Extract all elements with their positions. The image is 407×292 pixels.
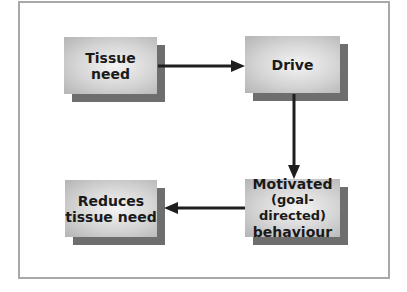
node-label-line: tissue need xyxy=(65,209,156,225)
node-tissue-need: Tissue need xyxy=(64,37,157,94)
node-label-line: Tissue xyxy=(85,50,135,66)
node-label-line: Reduces xyxy=(65,193,156,209)
node-face: Motivated (goal-directed) behaviour xyxy=(245,179,340,237)
node-label-line: Motivated xyxy=(245,176,340,192)
node-face: Drive xyxy=(245,36,340,93)
node-face: Reduces tissue need xyxy=(65,180,157,237)
node-label-line: Drive xyxy=(272,57,314,73)
node-label-line: (goal-directed) xyxy=(245,192,340,224)
node-reduces-tissue-need: Reduces tissue need xyxy=(65,180,157,237)
node-label-line: behaviour xyxy=(245,224,340,240)
node-label-line: need xyxy=(85,66,135,82)
node-face: Tissue need xyxy=(64,37,157,94)
node-drive: Drive xyxy=(245,36,340,93)
node-motivated-behaviour: Motivated (goal-directed) behaviour xyxy=(245,179,340,237)
